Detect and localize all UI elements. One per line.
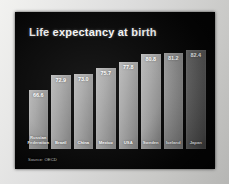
bar-category-label: Mexico <box>95 141 117 146</box>
bar-value-label: 66.6 <box>29 92 49 98</box>
bar-value-label: 77.8 <box>119 64 139 70</box>
bar-category-label: Japan <box>185 141 207 146</box>
bar-value-label: 81.2 <box>164 55 184 61</box>
bar: 77.8USA <box>119 62 139 149</box>
bar: 75.7Mexico <box>96 68 116 149</box>
bar-category-label: Sweden <box>140 141 162 146</box>
bar-slot: 66.6Russian Federation <box>29 46 49 149</box>
bar-value-label: 82.4 <box>186 52 206 58</box>
bar-category-label: China <box>73 141 95 146</box>
bar-slot: 73.0China <box>74 46 94 149</box>
bar-slot: 81.2Iceland <box>164 46 184 149</box>
bar: 82.4Japan <box>186 50 206 149</box>
bar-chart-plot-area: 66.6Russian Federation72.9Brazil73.0Chin… <box>27 46 207 149</box>
bar: 81.2Iceland <box>164 53 184 149</box>
bar-category-label: Brazil <box>50 141 72 146</box>
bar-slot: 80.8Sweden <box>141 46 161 149</box>
bar-category-label: Russian Federation <box>28 136 50 146</box>
bar-slot: 77.8USA <box>119 46 139 149</box>
bar-category-label: USA <box>118 141 140 146</box>
bar-slot: 75.7Mexico <box>96 46 116 149</box>
bar: 73.0China <box>74 74 94 149</box>
bar-category-label: Iceland <box>163 141 185 146</box>
source-note: Source: OECD <box>28 157 57 162</box>
bar-value-label: 75.7 <box>96 70 116 76</box>
bar: 80.8Sweden <box>141 54 161 149</box>
bar-slot: 72.9Brazil <box>51 46 71 149</box>
bar-value-label: 80.8 <box>141 56 161 62</box>
bar: 66.6Russian Federation <box>29 90 49 149</box>
bar-value-label: 72.9 <box>51 77 71 83</box>
bar-value-label: 73.0 <box>74 76 94 82</box>
page-title: Life expectancy at birth <box>29 26 157 38</box>
bar: 72.9Brazil <box>51 75 71 149</box>
photo-frame: Life expectancy at birth 66.6Russian Fed… <box>0 0 229 184</box>
bar-slot: 82.4Japan <box>186 46 206 149</box>
presentation-slide: Life expectancy at birth 66.6Russian Fed… <box>15 12 215 169</box>
